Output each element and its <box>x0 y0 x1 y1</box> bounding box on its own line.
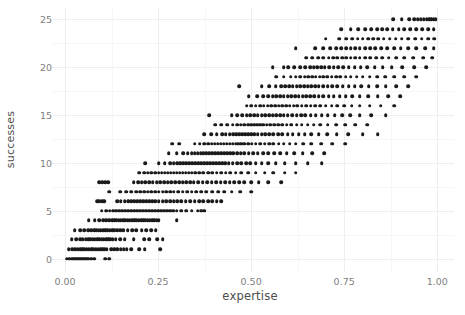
data-point <box>319 123 323 127</box>
data-point <box>142 238 146 242</box>
data-point <box>130 228 134 232</box>
data-point <box>314 113 318 117</box>
data-point <box>255 94 259 98</box>
data-point <box>254 104 258 108</box>
data-point <box>257 180 261 184</box>
data-point <box>394 37 398 41</box>
data-point <box>333 113 337 117</box>
data-point <box>249 104 253 108</box>
data-point <box>294 171 298 175</box>
x-tick-label: 0.75 <box>334 276 355 287</box>
data-point <box>170 142 174 146</box>
data-point <box>275 75 279 79</box>
data-point <box>356 37 360 41</box>
data-point <box>347 66 351 70</box>
data-point <box>272 171 276 175</box>
data-point <box>293 66 297 70</box>
data-point <box>129 190 133 194</box>
data-point <box>238 190 242 194</box>
data-point <box>294 46 298 50</box>
data-point <box>243 180 247 184</box>
data-point <box>228 180 232 184</box>
data-point <box>211 190 215 194</box>
data-point <box>392 46 396 50</box>
data-point <box>286 132 290 136</box>
data-point <box>374 56 378 60</box>
data-point <box>386 27 390 31</box>
data-point <box>297 132 301 136</box>
data-point <box>70 238 74 242</box>
data-point <box>143 247 147 251</box>
data-point <box>395 56 399 60</box>
data-point <box>380 56 384 60</box>
data-point <box>336 85 340 89</box>
data-point <box>379 104 383 108</box>
data-point <box>299 113 303 117</box>
data-point <box>267 85 271 89</box>
data-point <box>196 180 200 184</box>
data-point <box>380 46 384 50</box>
data-point <box>282 142 286 146</box>
data-point <box>107 190 111 194</box>
data-point <box>369 27 373 31</box>
data-point <box>199 190 203 194</box>
y-tick-label: 25 <box>22 14 52 25</box>
data-point <box>313 94 317 98</box>
data-point <box>399 46 403 50</box>
data-point <box>298 75 302 79</box>
data-point <box>403 75 407 79</box>
data-point <box>304 66 308 70</box>
y-axis-title-text: successes <box>5 110 18 167</box>
data-point <box>335 132 339 136</box>
data-point <box>267 132 271 136</box>
data-point <box>271 66 275 70</box>
data-point <box>281 123 285 127</box>
data-point <box>366 37 370 41</box>
data-point <box>361 75 365 79</box>
data-point <box>243 152 247 156</box>
data-point <box>184 199 188 203</box>
data-point <box>107 257 111 261</box>
data-point <box>306 161 310 165</box>
data-point <box>278 152 282 156</box>
data-point <box>209 132 213 136</box>
data-point <box>363 46 367 50</box>
data-point <box>105 247 109 251</box>
data-point <box>327 94 331 98</box>
data-point <box>358 56 362 60</box>
data-point <box>294 75 298 79</box>
data-point <box>353 85 357 89</box>
data-point <box>290 123 294 127</box>
data-point <box>337 37 341 41</box>
data-point <box>354 56 358 60</box>
data-point <box>407 18 411 22</box>
data-point <box>331 56 335 60</box>
data-point <box>132 238 136 242</box>
data-point <box>220 199 224 203</box>
data-point <box>383 75 387 79</box>
data-point <box>197 171 201 175</box>
data-point <box>263 142 267 146</box>
data-point <box>103 199 107 203</box>
data-point <box>361 132 365 136</box>
data-point <box>343 142 347 146</box>
data-point <box>324 104 328 108</box>
data-point <box>179 199 183 203</box>
data-point <box>245 104 249 108</box>
data-point <box>276 132 280 136</box>
data-point <box>390 66 394 70</box>
data-point <box>320 113 324 117</box>
data-point <box>330 85 334 89</box>
data-point <box>351 37 355 41</box>
data-point <box>266 161 270 165</box>
data-point <box>294 161 298 165</box>
data-point <box>240 161 244 165</box>
data-point <box>326 123 330 127</box>
data-point <box>346 132 350 136</box>
data-point <box>240 171 244 175</box>
data-point <box>267 142 271 146</box>
data-point <box>182 152 186 156</box>
data-point <box>237 85 241 89</box>
data-point <box>303 132 307 136</box>
data-point <box>206 171 210 175</box>
